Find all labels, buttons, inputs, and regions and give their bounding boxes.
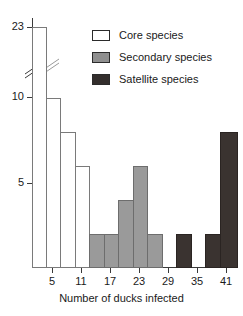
bar-bin-20 [118, 200, 134, 268]
plot-area: 23 10 5 5 11 17 23 29 [32, 18, 238, 268]
x-tick-label-5: 5 [49, 275, 55, 287]
y-tick-label-23: 23 [12, 20, 24, 32]
bar-bin-8 [60, 132, 76, 268]
x-tick-35: 35 [197, 268, 198, 273]
bar-bin-5 [46, 98, 61, 268]
x-tick-29: 29 [168, 268, 169, 273]
x-tick-23: 23 [139, 268, 140, 273]
x-tick-11: 11 [81, 268, 82, 273]
bar-bin-11 [75, 166, 90, 268]
x-tick-label-29: 29 [162, 275, 174, 287]
bar-bin-23 [133, 166, 148, 268]
bar-bin-14 [89, 234, 105, 268]
x-tick-label-35: 35 [191, 275, 203, 287]
x-tick-41: 41 [226, 268, 227, 273]
x-axis-title: Number of ducks infected [0, 292, 243, 304]
chart-figure: Core species Secondary species Satellite… [0, 0, 243, 316]
x-tick-label-11: 11 [75, 275, 86, 287]
bar-bin-26 [147, 234, 163, 268]
x-tick-label-23: 23 [133, 275, 145, 287]
bar-bin-2 [32, 27, 47, 268]
bar-bin-17 [104, 234, 119, 268]
x-tick-17: 17 [110, 268, 111, 273]
x-tick-label-41: 41 [220, 275, 232, 287]
x-tick-5: 5 [52, 268, 53, 273]
bar-bin-41 [220, 132, 238, 268]
y-tick-label-5: 5 [18, 176, 24, 188]
y-tick-label-10: 10 [12, 90, 24, 102]
bar-bin-32 [176, 234, 192, 268]
bar-bin-38 [205, 234, 221, 268]
x-tick-label-17: 17 [104, 275, 116, 287]
